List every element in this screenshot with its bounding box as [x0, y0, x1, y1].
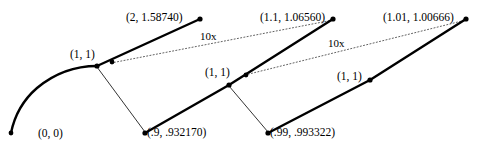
point-panel-3-one-one — [367, 77, 372, 82]
connector-panel-1-lower — [97, 67, 145, 132]
label-origin: (0, 0) — [38, 127, 63, 139]
label-panel-1-point: (1, 1) — [70, 48, 95, 60]
figure-container: (0, 0) (1, 1) (2, 1.58740) (.9, .932170)… — [0, 0, 478, 151]
point-panel-2-one-one — [226, 82, 231, 87]
label-panel-1-upper-point: (2, 1.58740) — [126, 11, 183, 23]
point-panel-1-upper — [197, 16, 202, 21]
point-panel-3-upper — [463, 16, 468, 21]
label-panel-3-point: (1, 1) — [337, 70, 362, 82]
label-panel-1-lower-point: (.9, .932170) — [147, 126, 206, 138]
label-zoom-factor-2: 10x — [328, 37, 345, 49]
zoom-dotted-line-2 — [245, 20, 466, 75]
point-panel-1-tangent-mark — [110, 60, 115, 65]
curve-panel-1 — [11, 66, 97, 133]
point-panel-1-one-one — [94, 63, 99, 68]
curve-panel-3 — [268, 19, 466, 133]
connector-panel-2-lower — [229, 86, 268, 132]
point-origin — [9, 131, 14, 136]
label-panel-2-point: (1, 1) — [205, 66, 230, 78]
curve-panel-2 — [145, 19, 333, 133]
label-panel-2-lower-point: (.99, .993322) — [270, 126, 335, 138]
label-zoom-factor-1: 10x — [200, 30, 217, 42]
point-panel-2-upper — [330, 16, 335, 21]
point-panel-2-tangent-mark — [244, 73, 249, 78]
label-panel-2-upper-point: (1.1, 1.06560) — [260, 11, 325, 23]
label-panel-3-upper-point: (1.01, 1.00666) — [383, 11, 454, 23]
secant-line-panel-1 — [97, 19, 200, 66]
